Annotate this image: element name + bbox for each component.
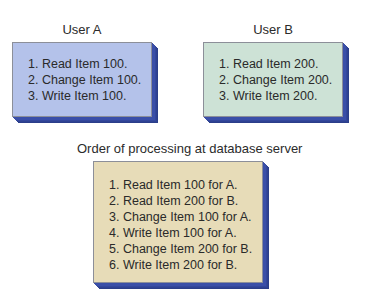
- user-a-steps: 1. Read Item 100. 2. Change Item 100. 3.…: [28, 56, 141, 104]
- server-step: 5. Change Item 200 for B.: [109, 241, 252, 257]
- server-step: 1. Read Item 100 for A.: [109, 177, 252, 193]
- user-b-box: 1. Read Item 200. 2. Change Item 200. 3.…: [203, 42, 343, 117]
- server-steps: 1. Read Item 100 for A. 2. Read Item 200…: [109, 177, 252, 273]
- user-b-title: User B: [203, 22, 343, 37]
- server-step: 4. Write Item 100 for A.: [109, 225, 252, 241]
- user-a-box: 1. Read Item 100. 2. Change Item 100. 3.…: [12, 42, 152, 117]
- user-a-title: User A: [12, 22, 152, 37]
- user-b-step: 3. Write Item 200.: [219, 88, 332, 104]
- server-processing-box: 1. Read Item 100 for A. 2. Read Item 200…: [93, 161, 263, 283]
- server-step: 3. Change Item 100 for A.: [109, 209, 252, 225]
- server-step: 2. Read Item 200 for B.: [109, 193, 252, 209]
- server-step: 6. Write Item 200 for B.: [109, 257, 252, 273]
- user-a-step: 1. Read Item 100.: [28, 56, 141, 72]
- user-a-step: 3. Write Item 100.: [28, 88, 141, 104]
- user-a-step: 2. Change Item 100.: [28, 72, 141, 88]
- user-b-step: 2. Change Item 200.: [219, 72, 332, 88]
- server-title: Order of processing at database server: [60, 141, 327, 156]
- user-b-step: 1. Read Item 200.: [219, 56, 332, 72]
- user-b-steps: 1. Read Item 200. 2. Change Item 200. 3.…: [219, 56, 332, 104]
